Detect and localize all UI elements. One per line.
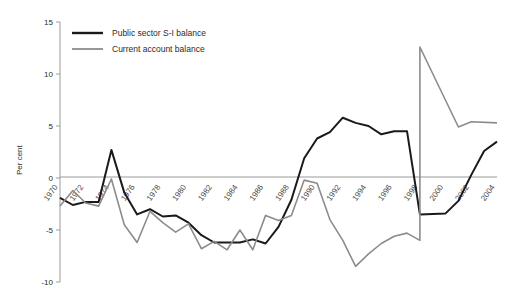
y-tick-label: -10 xyxy=(41,278,53,287)
x-tick-label: 1992 xyxy=(325,183,343,203)
y-axis-label: Per cent xyxy=(15,144,24,175)
series-group xyxy=(60,47,497,266)
y-ticks: 151050-5-10 xyxy=(41,18,60,287)
x-tick-label: 1982 xyxy=(196,183,214,203)
legend-label: Current account balance xyxy=(112,44,205,54)
x-tick-label: 1996 xyxy=(376,183,394,203)
y-axis: 151050-5-10 Per cent xyxy=(15,18,60,287)
y-tick-label: 10 xyxy=(44,70,53,79)
legend-label: Public sector S-I balance xyxy=(112,28,206,38)
line-chart: 151050-5-10 Per cent 1970197219741976197… xyxy=(0,0,520,305)
x-tick-label: 1984 xyxy=(222,183,240,203)
x-tick-label: 2004 xyxy=(479,183,497,203)
y-tick-label: 0 xyxy=(49,174,54,183)
series-line-public-sector xyxy=(60,118,497,244)
x-tick-label: 1986 xyxy=(248,183,266,203)
y-tick-label: 5 xyxy=(49,122,54,131)
x-tick-label: 1970 xyxy=(42,183,60,203)
x-tick-label: 1994 xyxy=(351,183,369,203)
chart-container: 151050-5-10 Per cent 1970197219741976197… xyxy=(0,0,520,305)
x-tick-label: 2000 xyxy=(428,183,446,203)
legend: Public sector S-I balanceCurrent account… xyxy=(72,28,206,54)
x-tick-labels: 1970197219741976197819801982198419861988… xyxy=(42,183,497,203)
x-tick-label: 1988 xyxy=(273,183,291,203)
x-tick-label: 1978 xyxy=(145,183,163,203)
y-tick-label: -5 xyxy=(46,226,54,235)
x-tick-label: 1980 xyxy=(171,183,189,203)
y-tick-label: 15 xyxy=(44,18,53,27)
series-line-current-account xyxy=(60,47,497,266)
